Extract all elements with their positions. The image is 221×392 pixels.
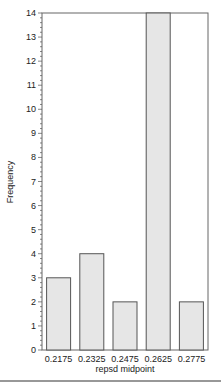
y-tick-label: 14 [26, 8, 36, 18]
y-tick-label: 4 [31, 249, 36, 259]
y-axis-title: Frequency [5, 160, 15, 203]
y-tick-label: 3 [31, 273, 36, 283]
y-tick-label: 7 [31, 177, 36, 187]
histogram-bar [80, 254, 104, 350]
y-tick-label: 0 [31, 345, 36, 355]
x-tick-label: 0.2475 [111, 354, 139, 364]
histogram-bar [47, 278, 71, 350]
histogram-bar [179, 302, 203, 350]
x-tick-label: 0.2175 [45, 354, 73, 364]
x-tick-label: 0.2325 [78, 354, 106, 364]
y-axis: 01234567891011121314 [26, 8, 42, 355]
x-axis-title: repsd midpoint [95, 364, 155, 374]
y-tick-label: 2 [31, 297, 36, 307]
y-tick-label: 6 [31, 201, 36, 211]
y-tick-label: 11 [27, 80, 36, 90]
histogram-chart: 01234567891011121314 0.21750.23250.24750… [0, 0, 221, 392]
y-tick-label: 1 [31, 321, 36, 331]
y-tick-label: 10 [26, 104, 36, 114]
y-tick-label: 8 [31, 152, 36, 162]
y-tick-label: 12 [26, 56, 36, 66]
y-tick-label: 13 [26, 32, 36, 42]
histogram-bar [113, 302, 137, 350]
x-tick-label: 0.2625 [144, 354, 172, 364]
y-tick-label: 5 [31, 225, 36, 235]
x-tick-label: 0.2775 [178, 354, 206, 364]
histogram-bar [146, 13, 170, 350]
x-axis: 0.21750.23250.24750.26250.2775 [45, 354, 205, 364]
y-tick-label: 9 [31, 128, 36, 138]
